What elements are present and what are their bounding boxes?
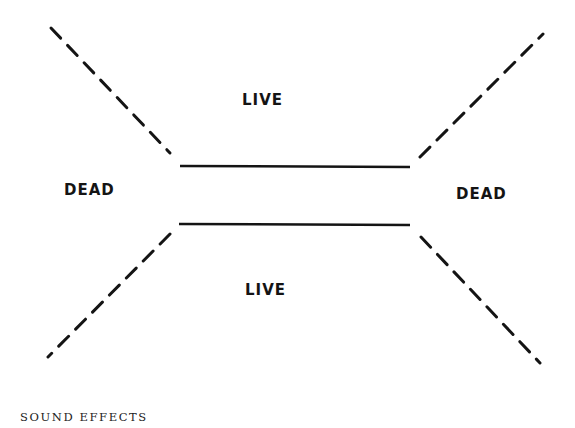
- label-live-top: LIVE: [242, 91, 283, 109]
- dashed-line-top-right: [420, 34, 543, 157]
- label-dead-right: DEAD: [456, 185, 507, 203]
- diagram-lines: [0, 0, 575, 428]
- solid-line-top: [180, 166, 410, 167]
- label-dead-left: DEAD: [64, 181, 115, 199]
- dashed-line-bottom-right: [421, 237, 540, 363]
- dashed-line-bottom-left: [48, 234, 170, 357]
- label-live-bottom: LIVE: [245, 281, 286, 299]
- dashed-line-top-left: [51, 28, 170, 153]
- solid-line-bottom: [179, 224, 410, 225]
- figure-caption: SOUND EFFECTS: [20, 410, 148, 424]
- diagram-canvas: LIVE DEAD DEAD LIVE SOUND EFFECTS: [0, 0, 575, 428]
